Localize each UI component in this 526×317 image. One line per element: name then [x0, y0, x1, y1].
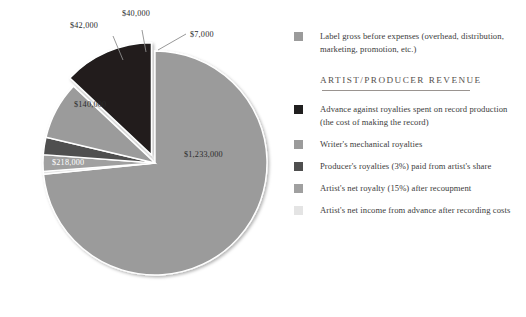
- callout-label-7000: $7,000: [190, 30, 214, 39]
- legend-item-label: Artist's net income from advance after r…: [320, 204, 510, 217]
- legend-section-rule: [322, 90, 470, 91]
- legend-item-label: Writer's mechanical royalties: [320, 138, 422, 151]
- legend-row-3: Artist's net royalty (15%) after recoupm…: [294, 182, 520, 195]
- callout-label-40000: $40,000: [122, 9, 150, 18]
- legend-swatch-icon: [294, 140, 303, 149]
- slice-label-140000: $140,000: [74, 100, 106, 109]
- callout-label-42000: $42,000: [70, 21, 98, 30]
- legend-item-label: Advance against royalties spent on recor…: [320, 103, 520, 129]
- legend-group-label-gross: Label gross before expenses (overhead, d…: [294, 30, 520, 56]
- legend-swatch-icon: [294, 162, 303, 171]
- legend-group-artist-producer: Advance against royalties spent on recor…: [294, 103, 520, 217]
- legend-swatch-icon: [294, 32, 303, 41]
- chart-legend: Label gross before expenses (overhead, d…: [294, 30, 520, 227]
- slice-label-218000: $218,000: [52, 158, 84, 167]
- legend-section-title: ARTIST/PRODUCER REVENUE: [320, 75, 520, 85]
- pie-chart-area: $1,233,000 $218,000 $140,000 $42,000 $40…: [0, 0, 300, 317]
- legend-item-label: Producer's royalties (3%) paid from arti…: [320, 160, 491, 173]
- legend-row-0: Advance against royalties spent on recor…: [294, 103, 520, 129]
- legend-row-2: Producer's royalties (3%) paid from arti…: [294, 160, 520, 173]
- legend-row-4: Artist's net income from advance after r…: [294, 204, 520, 217]
- legend-section-header: ARTIST/PRODUCER REVENUE: [294, 75, 520, 91]
- chart-figure: $1,233,000 $218,000 $140,000 $42,000 $40…: [0, 0, 526, 317]
- slice-label-main: $1,233,000: [184, 150, 223, 159]
- legend-item-label: Artist's net royalty (15%) after recoupm…: [320, 182, 471, 195]
- legend-swatch-icon: [294, 184, 303, 193]
- leader-line-7000: [158, 34, 186, 50]
- legend-row-1: Writer's mechanical royalties: [294, 138, 520, 151]
- legend-swatch-icon: [294, 206, 303, 215]
- legend-item-label: Label gross before expenses (overhead, d…: [320, 30, 520, 56]
- pie-chart-svg: [0, 0, 300, 317]
- legend-row-top-0: Label gross before expenses (overhead, d…: [294, 30, 520, 56]
- legend-swatch-icon: [294, 105, 303, 114]
